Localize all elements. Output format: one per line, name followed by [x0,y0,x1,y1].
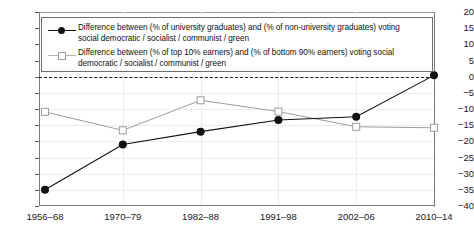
filled-circle-marker-icon [48,26,76,35]
data-point-marker [41,186,49,194]
legend-line-1: Difference between (% of top 10% earners… [78,48,394,57]
chart-figure: 20151050−5−10−15−20−25−30−35−40 1956–681… [0,0,474,237]
data-point-marker [274,116,282,124]
data-point-marker [353,123,360,130]
chart-legend: Difference between (% of university grad… [41,17,433,72]
data-point-marker [119,127,126,134]
legend-entry-top-earners: Difference between (% of top 10% earners… [48,47,427,70]
data-point-marker [42,108,49,115]
data-point-marker [430,71,438,79]
data-point-marker [197,97,204,104]
hollow-square-marker-icon [48,51,76,60]
data-point-marker [119,141,127,149]
data-point-marker [352,113,360,121]
series-line [45,75,434,189]
zero-reference-line [39,77,434,78]
legend-entry-university-graduates-text: Difference between (% of university grad… [78,22,427,45]
data-point-marker [275,108,282,115]
legend-entry-university-graduates: Difference between (% of university grad… [48,22,427,45]
legend-line-2: democratic / socialist / communist / gre… [78,59,226,68]
legend-line-1: Difference between (% of university grad… [78,23,400,32]
data-point-marker [197,128,205,136]
legend-entry-top-earners-text: Difference between (% of top 10% earners… [78,47,427,70]
legend-line-2: social democratic / socialist / communis… [78,34,249,43]
data-point-marker [431,124,438,131]
